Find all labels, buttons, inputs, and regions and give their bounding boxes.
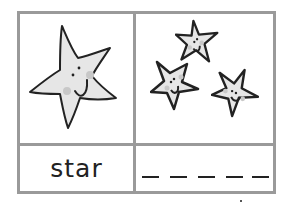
blank-dash bbox=[142, 176, 159, 178]
blank-dash bbox=[198, 176, 215, 178]
star-icon bbox=[150, 59, 200, 111]
word-label: star bbox=[20, 146, 133, 191]
stray-mark bbox=[240, 200, 242, 202]
blank-dash bbox=[252, 176, 269, 178]
star-icon bbox=[211, 68, 259, 118]
star-icon bbox=[28, 20, 128, 130]
blank-dash bbox=[226, 176, 243, 178]
blank-dash bbox=[170, 176, 187, 178]
flashcard: star bbox=[17, 11, 276, 194]
write-blank bbox=[136, 146, 273, 191]
